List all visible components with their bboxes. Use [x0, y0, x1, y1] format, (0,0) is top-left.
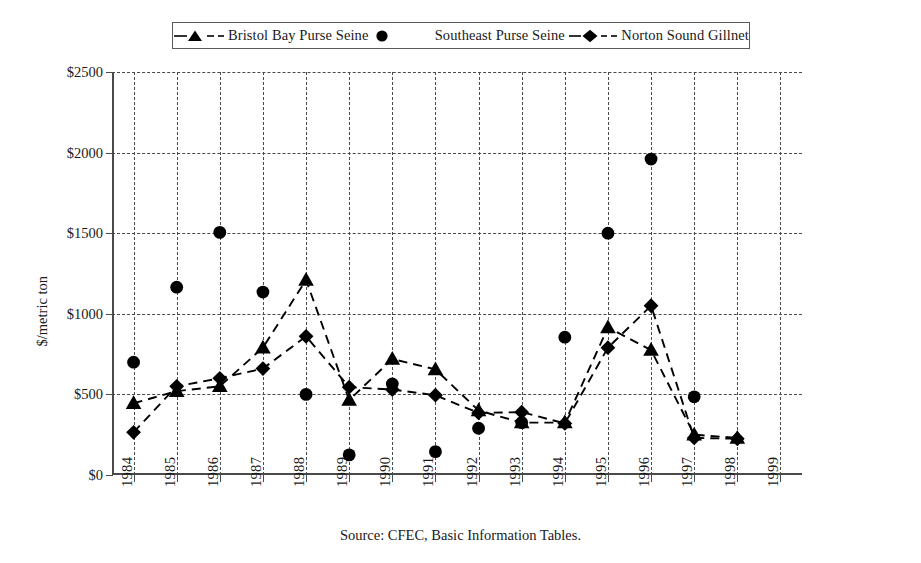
series-layer [112, 72, 802, 475]
legend-label-southeast: Southeast Purse Seine [435, 27, 565, 44]
x-axis-tick-label: 1999 [765, 457, 782, 487]
gridline-vertical [306, 72, 307, 475]
gridline-horizontal [112, 72, 802, 73]
gridline-vertical [565, 72, 566, 475]
x-axis-tick-label: 1993 [506, 457, 523, 487]
gridline-vertical [134, 72, 135, 475]
y-axis-tick-label: $1000 [67, 305, 103, 322]
x-axis-tick-label: 1994 [549, 457, 566, 487]
y-axis-line [112, 72, 114, 475]
y-axis-tick-label: $500 [74, 386, 103, 403]
x-axis-tick-label: 1998 [722, 457, 739, 487]
gridline-vertical [608, 72, 609, 475]
legend-entry-southeast: Southeast Purse Seine [372, 27, 565, 44]
x-axis-tick-label: 1987 [247, 457, 264, 487]
y-axis-tick-label: $0 [89, 467, 104, 484]
x-axis-tick-label: 1995 [592, 457, 609, 487]
legend-entry-norton-sound: Norton Sound Gillnet [568, 27, 749, 44]
gridline-vertical [737, 72, 738, 475]
gridline-vertical [220, 72, 221, 475]
diamond-marker-icon [568, 29, 618, 43]
x-axis-tick-label: 1996 [636, 457, 653, 487]
y-axis-tick [106, 233, 113, 234]
source-note: Source: CFEC, Basic Information Tables. [0, 527, 921, 544]
triangle-marker-icon [173, 29, 225, 43]
circle-marker-icon [372, 29, 392, 43]
gridline-vertical [651, 72, 652, 475]
legend-entry-bristol-bay: Bristol Bay Purse Seine [173, 27, 368, 44]
y-axis-tick-label: $2000 [67, 144, 103, 161]
chart-legend: Bristol Bay Purse Seine Southeast Purse … [172, 22, 750, 49]
x-axis-tick-label: 1988 [291, 457, 308, 487]
y-axis-tick [106, 475, 113, 476]
x-axis-tick-label: 1984 [118, 457, 135, 487]
x-axis-tick-label: 1990 [377, 457, 394, 487]
chart-root: Bristol Bay Purse Seine Southeast Purse … [0, 0, 921, 563]
x-axis-tick-label: 1992 [463, 457, 480, 487]
gridline-horizontal [112, 153, 802, 154]
x-axis-tick-label: 1986 [204, 457, 221, 487]
legend-label-norton-sound: Norton Sound Gillnet [621, 27, 749, 44]
gridline-vertical [694, 72, 695, 475]
y-axis-tick [106, 394, 113, 395]
gridline-vertical [392, 72, 393, 475]
gridline-vertical [435, 72, 436, 475]
gridline-horizontal [112, 314, 802, 315]
x-axis-tick-label: 1989 [334, 457, 351, 487]
gridline-vertical [479, 72, 480, 475]
gridline-vertical [349, 72, 350, 475]
y-axis-tick [106, 314, 113, 315]
gridline-horizontal [112, 233, 802, 234]
gridline-vertical [522, 72, 523, 475]
x-axis-tick-label: 1985 [161, 457, 178, 487]
gridline-vertical [177, 72, 178, 475]
gridline-vertical [263, 72, 264, 475]
x-axis-tick-label: 1991 [420, 457, 437, 487]
y-axis-tick-label: $2500 [67, 64, 103, 81]
y-axis-tick-label: $1500 [67, 225, 103, 242]
y-axis-tick [106, 72, 113, 73]
y-axis-title: $/metric ton [34, 276, 51, 346]
y-axis-tick [106, 153, 113, 154]
legend-label-bristol-bay: Bristol Bay Purse Seine [228, 27, 368, 44]
gridline-vertical [780, 72, 781, 475]
plot-area: $0$500$1000$1500$2000$250019841985198619… [112, 72, 802, 475]
x-axis-tick-label: 1997 [679, 457, 696, 487]
gridline-horizontal [112, 394, 802, 395]
